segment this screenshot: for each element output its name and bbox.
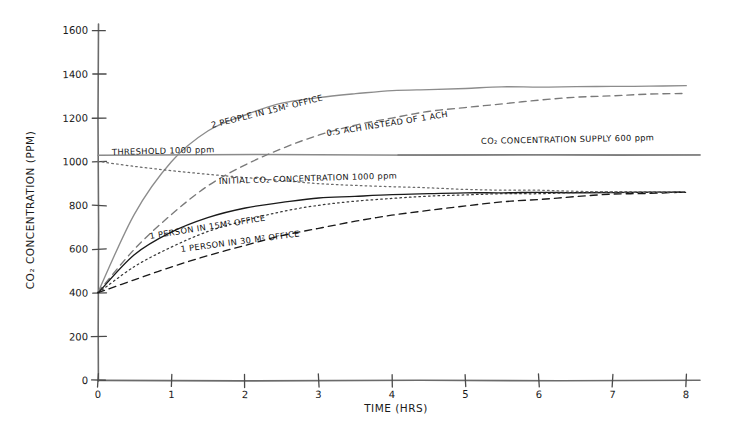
y-tick-label: 800 — [69, 200, 88, 211]
x-tick-label: 6 — [536, 389, 543, 400]
y-tick-label: 0 — [82, 375, 88, 386]
x-tick — [465, 375, 466, 387]
x-tick — [98, 374, 99, 387]
x-tick-label: 4 — [389, 389, 396, 400]
chart-canvas: 02004006008001000120014001600 012345678 … — [0, 0, 729, 432]
label-supply: CO₂ CONCENTRATION SUPPLY 600 ppm — [481, 132, 655, 146]
x-tick — [612, 374, 613, 387]
x-tick — [318, 374, 319, 387]
y-tick-label: 1000 — [63, 156, 88, 167]
x-axis-tick-labels: 012345678 — [95, 389, 690, 400]
x-tick-label: 7 — [609, 389, 616, 400]
y-axis-tick-labels: 02004006008001000120014001600 — [62, 25, 88, 386]
label-initial-concentration: INITIAL CO₂ CONCENTRATION 1000 ppm — [219, 170, 398, 186]
y-tick-label: 1600 — [63, 25, 88, 36]
supply-line — [398, 155, 700, 156]
y-axis-line — [98, 24, 99, 381]
y-tick — [92, 205, 106, 206]
y-tick-label: 1400 — [62, 69, 88, 81]
label-half-ach: 0.5 ACH INSTEAD OF 1 ACH — [326, 109, 449, 138]
x-tick-label: 5 — [462, 389, 468, 400]
y-tick-label: 1200 — [62, 112, 88, 124]
x-tick-label: 2 — [242, 389, 249, 400]
y-tick — [93, 249, 107, 250]
x-axis-line — [98, 380, 700, 381]
y-tick-label: 600 — [69, 243, 88, 255]
x-tick — [686, 374, 687, 387]
y-tick-label: 200 — [69, 331, 88, 342]
x-tick-label: 3 — [315, 389, 321, 400]
curve-labels-group: 2 PEOPLE IN 15M² OFFICE 0.5 ACH INSTEAD … — [111, 92, 655, 254]
y-tick-label: 400 — [69, 287, 88, 298]
co2-concentration-line-chart: 02004006008001000120014001600 012345678 … — [0, 0, 729, 432]
x-tick-label: 1 — [168, 389, 175, 400]
x-tick-label: 8 — [683, 389, 689, 400]
y-axis-title: CO₂ CONCENTRATION (PPM) — [24, 131, 36, 289]
label-two-people: 2 PEOPLE IN 15M² OFFICE — [210, 92, 324, 129]
x-axis-title: TIME (HRS) — [363, 402, 428, 414]
x-tick — [538, 374, 539, 387]
x-tick-label: 0 — [95, 389, 101, 400]
